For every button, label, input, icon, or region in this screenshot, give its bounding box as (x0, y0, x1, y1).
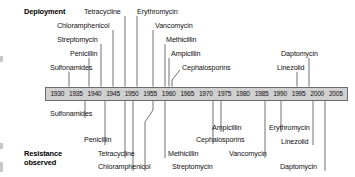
resistance-label-penicillin: Penicillin (84, 136, 111, 144)
axis-tick-1950: 1950 (122, 89, 141, 99)
deployment-label-penicillin: Penicillin (70, 50, 97, 58)
resistance-label-cephalosporins: Cephalosporins (196, 136, 245, 144)
axis-tick-1965: 1965 (178, 89, 197, 99)
axis-tick-1945: 1945 (104, 89, 123, 99)
resistance-label-ampicillin: Ampicillin (212, 124, 241, 132)
deployment-label-linezolid: Linezolid (277, 64, 304, 72)
timeline-figure: Deployment Resistance observed Tetracycl… (0, 0, 355, 177)
resistance-label-erythromycin: Erythromycin (269, 124, 310, 132)
axis-tick-1990: 1990 (271, 89, 290, 99)
axis-tick-1985: 1985 (252, 89, 271, 99)
axis-tick-1970: 1970 (197, 89, 216, 99)
axis-tick-1955: 1955 (141, 89, 160, 99)
deployment-label-methicillin: Methicillin (166, 36, 196, 44)
axis-tick-2000: 2000 (308, 89, 327, 99)
resistance-label-vancomycin: Vancomycin (229, 150, 267, 158)
deployment-label-erythromycin: Erythromycin (137, 8, 178, 16)
deployment-section-title: Deployment (24, 8, 65, 16)
axis-tick-1930: 1930 (48, 89, 67, 99)
axis-tick-1960: 1960 (159, 89, 178, 99)
page-edge-artifact-top (0, 56, 3, 62)
page-edge-artifact-bottom (0, 162, 3, 172)
resistance-label-linezolid: Linezolid (281, 138, 308, 146)
leader-resist-streptomycin (145, 101, 153, 172)
deployment-label-streptomycin: Streptomycin (57, 36, 98, 44)
resistance-label-tetracycline: Tetracycline (98, 150, 135, 158)
resistance-label-sulfonamides: Sulfonamides (50, 110, 92, 118)
axis-tick-1935: 1935 (67, 89, 86, 99)
deployment-label-tetracycline: Tetracycline (84, 8, 121, 16)
resistance-label-streptomycin: Streptomycin (172, 163, 213, 171)
leader-deploy-cephalosporins (172, 70, 180, 87)
axis-tick-1940: 1940 (85, 89, 104, 99)
axis-tick-2005: 2005 (326, 89, 345, 99)
deployment-label-daptomycin: Daptomycin (281, 50, 318, 58)
deployment-label-chloramphenicol: Chloramphenicol (57, 22, 109, 30)
axis-tick-1995: 1995 (289, 89, 308, 99)
resistance-label-daptomycin: Daptomycin (280, 163, 317, 171)
deployment-label-ampicillin: Ampicillin (171, 50, 200, 58)
axis-tick-1980: 1980 (234, 89, 253, 99)
deployment-label-vancomycin: Vancomycin (155, 22, 193, 30)
axis-tick-1975: 1975 (215, 89, 234, 99)
page-edge-artifact-mid (0, 143, 3, 149)
resistance-section-title-line2: observed (24, 159, 56, 167)
resistance-label-chloramphenicol: Chloramphenicol (98, 163, 150, 171)
deployment-label-sulfonamides: Sulfonamides (50, 64, 92, 72)
resistance-label-methicillin: Methicillin (168, 150, 198, 158)
deployment-label-cephalosporins: Cephalosporins (182, 64, 231, 72)
